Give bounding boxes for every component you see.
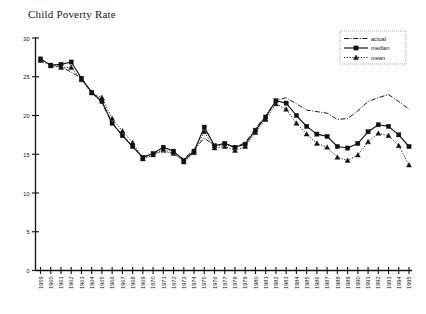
- data-point-marker: [386, 124, 390, 128]
- x-axis-tick-label: 1966: [109, 277, 115, 289]
- x-axis-tick-label: 1991: [365, 277, 371, 289]
- x-axis-tick-label: 1972: [171, 277, 177, 289]
- data-point-marker: [202, 125, 206, 129]
- y-axis-tick-label: 20: [23, 113, 29, 119]
- x-axis-tick-label: 1987: [324, 277, 330, 289]
- data-point-marker: [305, 124, 309, 128]
- data-point-marker: [354, 46, 358, 50]
- data-point-marker: [325, 134, 329, 138]
- data-point-marker: [335, 144, 339, 148]
- data-point-marker: [110, 121, 114, 125]
- x-axis-tick-label: 1960: [48, 277, 54, 289]
- x-axis-tick-label: 1974: [191, 277, 197, 289]
- y-axis-tick-label: 15: [23, 152, 29, 158]
- x-axis-tick-label: 1968: [130, 277, 136, 289]
- x-axis-tick-label: 1967: [120, 277, 126, 289]
- data-point-marker: [304, 132, 309, 137]
- legend-label-actual: actual: [371, 36, 386, 42]
- data-point-marker: [69, 60, 73, 64]
- data-point-marker: [325, 145, 330, 150]
- series-mean: [38, 58, 412, 167]
- data-point-marker: [120, 134, 124, 138]
- data-point-marker: [407, 144, 411, 148]
- y-axis-tick-label: 10: [23, 191, 29, 197]
- data-point-marker: [345, 158, 350, 163]
- chart-page: Child Poverty Rate 051015202530 19591960…: [0, 0, 426, 314]
- x-axis-tick-label: 1961: [58, 277, 64, 289]
- x-axis-tick-label: 1981: [263, 277, 269, 289]
- data-point-marker: [376, 123, 380, 127]
- x-axis-tick-label: 1965: [99, 277, 105, 289]
- x-axis-tick-label: 1976: [212, 277, 218, 289]
- x-axis-tick-label: 1964: [89, 277, 95, 289]
- x-axis-tick-label: 1980: [253, 277, 259, 289]
- x-axis: 1959196019611962196319641965196619671968…: [36, 267, 413, 289]
- data-point-marker: [376, 131, 381, 136]
- data-point-marker: [356, 141, 360, 145]
- data-point-marker: [284, 101, 288, 105]
- x-axis-tick-label: 1970: [150, 277, 156, 289]
- y-axis-tick-label: 0: [26, 268, 29, 274]
- series-layer: [38, 57, 412, 167]
- data-point-marker: [294, 113, 298, 117]
- data-point-marker: [315, 132, 319, 136]
- y-axis: 051015202530: [23, 36, 39, 275]
- legend-label-median: median: [371, 45, 389, 51]
- x-axis-tick-label: 1978: [232, 277, 238, 289]
- y-axis-tick-label: 30: [23, 36, 29, 42]
- x-axis-tick-label: 1962: [68, 277, 74, 289]
- x-axis-tick-label: 1963: [79, 277, 85, 289]
- x-axis-tick-label: 1993: [386, 277, 392, 289]
- x-axis-tick-label: 1975: [201, 277, 207, 289]
- data-point-marker: [407, 163, 412, 168]
- x-axis-tick-label: 1988: [335, 277, 341, 289]
- data-point-marker: [314, 141, 319, 146]
- data-point-marker: [397, 133, 401, 137]
- line-chart: 051015202530 195919601961196219631964196…: [0, 0, 426, 314]
- series-line: [41, 60, 410, 165]
- legend: actualmedianmean: [340, 31, 406, 64]
- x-axis-tick-label: 1989: [345, 277, 351, 289]
- x-axis-tick-label: 1992: [375, 277, 381, 289]
- data-point-marker: [284, 107, 289, 112]
- x-axis-tick-label: 1969: [140, 277, 146, 289]
- x-axis-tick-label: 1973: [181, 277, 187, 289]
- x-axis-tick-label: 1959: [38, 277, 44, 289]
- data-point-marker: [131, 144, 135, 148]
- x-axis-tick-label: 1979: [242, 277, 248, 289]
- x-axis-tick-label: 1984: [294, 277, 300, 289]
- data-point-marker: [366, 130, 370, 134]
- x-axis-tick-label: 1977: [222, 277, 228, 289]
- data-point-marker: [99, 95, 104, 100]
- x-axis-tick-label: 1985: [304, 277, 310, 289]
- data-point-marker: [345, 146, 349, 150]
- x-axis-tick-label: 1971: [161, 277, 167, 289]
- data-point-marker: [130, 140, 135, 145]
- data-point-marker: [335, 155, 340, 160]
- x-axis-tick-label: 1982: [273, 277, 279, 289]
- x-axis-tick-label: 1983: [283, 277, 289, 289]
- x-axis-tick-label: 1986: [314, 277, 320, 289]
- x-axis-tick-label: 1995: [406, 277, 412, 289]
- x-axis-tick-label: 1990: [355, 277, 361, 289]
- x-axis-tick-label: 1994: [396, 277, 402, 289]
- legend-label-mean: mean: [371, 55, 385, 61]
- y-axis-tick-label: 25: [23, 74, 29, 80]
- y-axis-tick-label: 5: [26, 229, 29, 235]
